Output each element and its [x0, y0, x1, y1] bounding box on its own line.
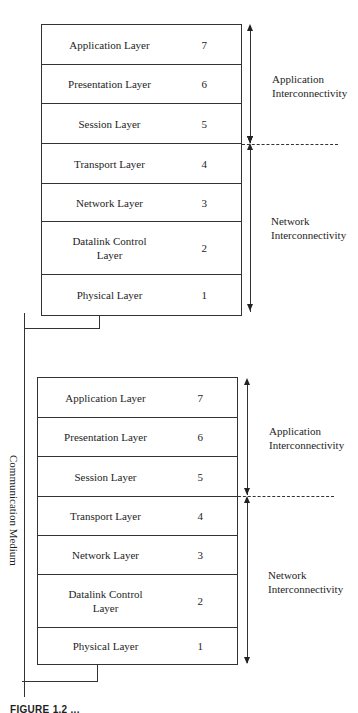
layer-1-row: Physical Layer 1: [38, 627, 237, 664]
layer-number: 3: [198, 549, 204, 561]
layer-7-row: Application Layer 7: [42, 25, 241, 64]
bottom-application-group-label: Application Interconnectivity: [269, 424, 344, 452]
layer-name: Transport Layer: [42, 157, 177, 171]
communication-medium-line: [24, 313, 25, 697]
layer-name: Application Layer: [42, 38, 177, 52]
arrow-down-icon: [244, 657, 250, 664]
top-network-span-line: [250, 145, 251, 312]
group-label-line: Interconnectivity: [271, 228, 346, 242]
arrow-up-icon: [247, 24, 253, 31]
layer-5-row: Session Layer 5: [42, 103, 241, 143]
layer-number: 5: [198, 471, 204, 483]
bottom-application-span-line: [247, 381, 248, 495]
layer-name: Transport Layer: [38, 509, 173, 523]
layer-number: 2: [202, 242, 208, 254]
layer-6-row: Presentation Layer 6: [42, 64, 241, 103]
top-application-span-line: [250, 26, 251, 143]
layer-2-row: Datalink Control Layer 2: [42, 221, 241, 274]
group-label-line: Application: [272, 72, 347, 86]
layer-5-row: Session Layer 5: [38, 456, 237, 496]
layer-name: Network Layer: [42, 196, 177, 210]
layer-name: Presentation Layer: [38, 430, 173, 444]
layer-number: 3: [202, 197, 208, 209]
bottom-network-span-line: [247, 498, 248, 663]
communication-medium-label: Communication Medium: [8, 455, 20, 566]
layer-name: Session Layer: [42, 117, 177, 131]
bottom-stack-connector: [97, 664, 98, 682]
layer-number: 7: [202, 39, 208, 51]
top-osi-stack: Application Layer 7 Presentation Layer 6…: [41, 24, 242, 316]
layer-name: Session Layer: [38, 470, 173, 484]
arrow-down-icon: [247, 136, 253, 143]
layer-name: Datalink Control Layer: [42, 234, 177, 262]
bottom-divider-dashed-line: [238, 496, 334, 497]
layer-name: Application Layer: [38, 391, 173, 405]
group-label-line: Network: [271, 214, 346, 228]
bottom-osi-stack: Application Layer 7 Presentation Layer 6…: [37, 377, 238, 665]
layer-name: Presentation Layer: [42, 77, 177, 91]
layer-number: 4: [202, 158, 208, 170]
layer-number: 7: [198, 392, 204, 404]
layer-3-row: Network Layer 3: [38, 535, 237, 574]
layer-name: Physical Layer: [42, 288, 177, 302]
group-label-line: Interconnectivity: [269, 438, 344, 452]
layer-number: 5: [202, 118, 208, 130]
layer-4-row: Transport Layer 4: [42, 143, 241, 183]
top-divider-dashed-line: [242, 144, 338, 145]
layer-name: Network Layer: [38, 548, 173, 562]
arrow-up-icon: [244, 378, 250, 385]
arrow-down-icon: [244, 488, 250, 495]
group-label-line: Application: [269, 424, 344, 438]
layer-number: 4: [198, 510, 204, 522]
top-stack-connector: [25, 328, 100, 329]
bottom-stack-connector: [22, 681, 98, 682]
layer-1-row: Physical Layer 1: [42, 274, 241, 315]
arrow-up-icon: [244, 496, 250, 503]
group-label-line: Interconnectivity: [272, 86, 347, 100]
group-label-line: Interconnectivity: [268, 582, 343, 596]
layer-number: 1: [198, 640, 204, 652]
arrow-down-icon: [247, 304, 253, 311]
top-application-group-label: Application Interconnectivity: [272, 72, 347, 100]
top-network-group-label: Network Interconnectivity: [271, 214, 346, 242]
layer-name: Datalink Control Layer: [38, 587, 173, 615]
bottom-network-group-label: Network Interconnectivity: [268, 568, 343, 596]
layer-name: Physical Layer: [38, 639, 173, 653]
layer-number: 6: [198, 431, 204, 443]
layer-number: 2: [198, 595, 204, 607]
layer-6-row: Presentation Layer 6: [38, 417, 237, 456]
figure-caption: FIGURE 1.2 ...: [10, 704, 80, 713]
group-label-line: Network: [268, 568, 343, 582]
layer-2-row: Datalink Control Layer 2: [38, 574, 237, 627]
layer-number: 1: [202, 289, 208, 301]
layer-7-row: Application Layer 7: [38, 378, 237, 417]
layer-3-row: Network Layer 3: [42, 183, 241, 221]
layer-4-row: Transport Layer 4: [38, 496, 237, 535]
layer-number: 6: [202, 78, 208, 90]
